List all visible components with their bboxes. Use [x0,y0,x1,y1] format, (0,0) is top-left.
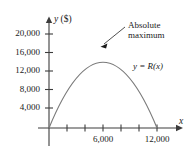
y-axis-label: y ($) [54,15,72,25]
revenue-parabola-figure: 20,000 16,000 12,000 8,000 4,000 6,000 1… [0,0,187,154]
annotation-line-2: maximum [128,30,165,40]
x-axis-label: x [179,117,183,127]
y-axis-label-unit: ($) [61,14,72,24]
annotation-leader-line [104,27,125,44]
y-axis-label-var: y [54,14,58,24]
revenue-curve [49,62,157,128]
x-tick-label-6000: 6,000 [83,135,123,144]
y-axis-arrowhead [46,17,52,24]
y-tick-label-20000: 20,000 [2,29,40,38]
y-tick-label-8000: 8,000 [2,85,40,94]
y-tick-label-16000: 16,000 [2,48,40,57]
curve-label-y-equals-R-of-x: y = R(x) [133,62,163,71]
x-tick-label-12000: 12,000 [135,135,179,144]
absolute-maximum-annotation: Absolute maximum [128,20,165,40]
y-tick-label-4000: 4,000 [2,103,40,112]
y-tick-label-12000: 12,000 [2,66,40,75]
annotation-arrowhead [101,44,108,49]
annotation-line-1: Absolute [128,20,165,30]
